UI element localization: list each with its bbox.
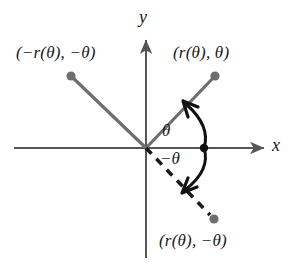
diagram-canvas — [0, 0, 299, 273]
upper-right-ray-endpoint-dot — [210, 71, 219, 80]
y-axis-label: y — [139, 8, 147, 26]
polar-symmetry-diagram: (−r(θ), −θ) (r(θ), θ) (r(θ), −θ) y x θ −… — [0, 0, 299, 273]
lower-right-point-label: (r(θ), −θ) — [159, 232, 227, 249]
negative-angle-label: −θ — [160, 150, 180, 167]
lower-right-ray-endpoint-dot — [209, 214, 218, 223]
x-axis-label: x — [272, 136, 280, 154]
upper-left-ray — [71, 76, 146, 148]
upper-right-point-label: (r(θ), θ) — [173, 44, 229, 61]
x-axis-intersection-dot — [200, 144, 208, 152]
positive-angle-label: θ — [162, 122, 170, 139]
upper-left-ray-endpoint-dot — [66, 71, 75, 80]
upper-left-point-label: (−r(θ), −θ) — [16, 44, 96, 61]
